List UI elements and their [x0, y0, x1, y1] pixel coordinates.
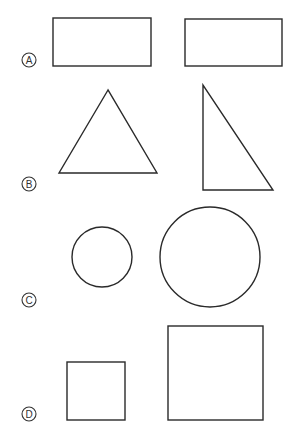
circle-small [72, 227, 132, 287]
equilateral-triangle [59, 90, 157, 173]
option-d[interactable]: D [22, 326, 263, 421]
option-letter: B [26, 179, 33, 190]
option-c[interactable]: C [22, 207, 260, 307]
shape-comparison-diagram: A B C D [0, 0, 291, 442]
option-c-label[interactable]: C [22, 293, 36, 307]
option-b-label[interactable]: B [22, 177, 36, 191]
option-letter: A [26, 55, 33, 66]
rectangle-small [53, 18, 151, 66]
option-d-label[interactable]: D [22, 407, 36, 421]
option-b[interactable]: B [22, 85, 273, 191]
right-triangle [203, 85, 273, 190]
option-letter: D [25, 409, 32, 420]
option-a-label[interactable]: A [22, 53, 36, 67]
rectangle-large [185, 19, 282, 66]
square-small [67, 362, 125, 420]
option-letter: C [25, 295, 32, 306]
square-large [168, 326, 263, 420]
option-a[interactable]: A [22, 18, 282, 67]
circle-large [160, 207, 260, 307]
